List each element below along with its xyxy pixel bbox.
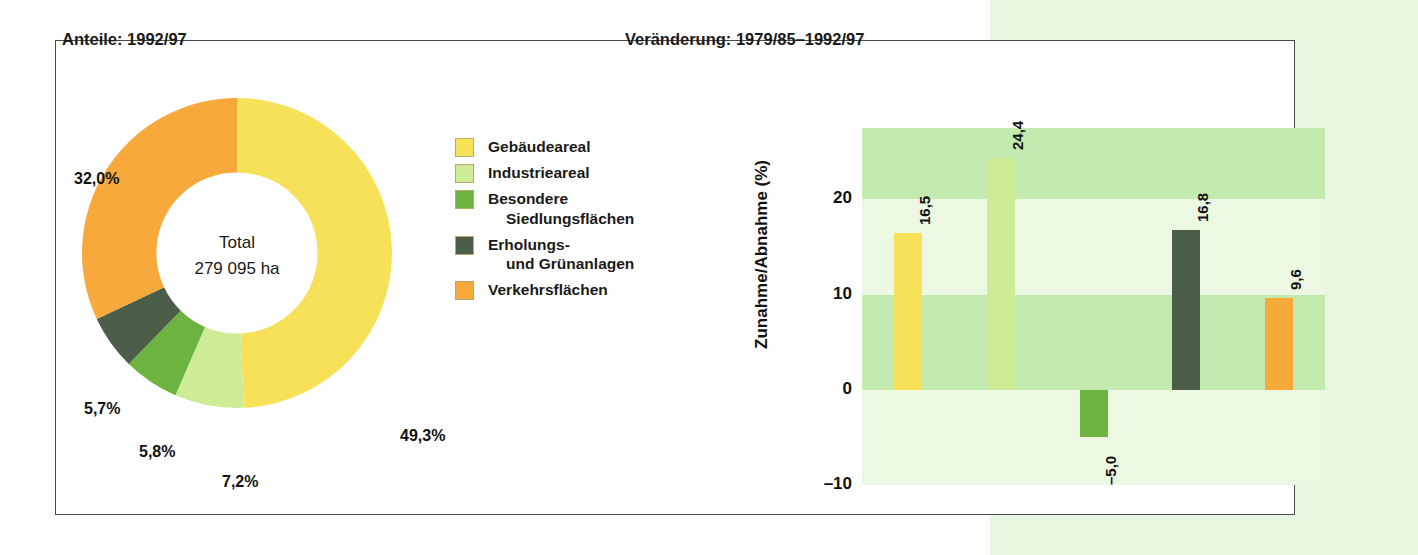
legend-swatch-icon-verkehrsflaechen <box>455 281 474 300</box>
legend-label-text: Industrieareal <box>488 164 590 181</box>
legend-swatch-icon-gebaeudeareal <box>455 138 474 157</box>
donut-chart: Total 279 095 ha <box>72 88 402 418</box>
legend-item-erholungs-gruenanlagen: Erholungs- und Grünanlagen <box>455 235 710 275</box>
donut-label-gebaeudeareal: 49,3% <box>400 427 445 445</box>
bar-chart-y-tick-label: –10 <box>824 474 852 494</box>
bar-value-label: 16,8 <box>1194 193 1211 222</box>
legend-label-verkehrsflaechen: Verkehrsflächen <box>488 280 608 300</box>
donut-label-besondere-siedlungsflaechen: 5,8% <box>139 443 175 461</box>
legend-item-verkehrsflaechen: Verkehrsflächen <box>455 280 710 300</box>
bar <box>1080 390 1108 438</box>
legend-label-besondere-siedlungsflaechen: Besondere Siedlungsflächen <box>488 189 634 229</box>
bar-chart-y-tick-label: 0 <box>843 379 852 399</box>
bar-chart-y-axis-title: Zunahme/Abnahme (%) <box>752 160 772 349</box>
donut-label-industrieareal: 7,2% <box>222 473 258 491</box>
legend-swatch-icon-erholungs-gruenanlagen <box>455 236 474 255</box>
bar-chart-plot-area: 16,524,4–5,016,89,6 <box>862 128 1325 485</box>
legend-label-text: Erholungs- <box>488 236 570 253</box>
legend-swatch-icon-industrieareal <box>455 164 474 183</box>
donut-label-verkehrsflaechen: 32,0% <box>74 170 119 188</box>
legend-label-text: Verkehrsflächen <box>488 281 608 298</box>
legend-item-gebaeudeareal: Gebäudeareal <box>455 137 710 157</box>
legend-label-erholungs-gruenanlagen: Erholungs- und Grünanlagen <box>488 235 634 275</box>
donut-center-total-label: Total <box>219 233 255 252</box>
legend-item-industrieareal: Industrieareal <box>455 163 710 183</box>
legend-label-text-line2: Siedlungsflächen <box>488 209 634 229</box>
left-chart-title: Anteile: 1992/97 <box>62 30 187 49</box>
legend-label-gebaeudeareal: Gebäudeareal <box>488 137 591 157</box>
donut-center-total-value: 279 095 ha <box>194 259 280 278</box>
bar <box>894 233 922 390</box>
bar <box>1172 230 1200 390</box>
bar-value-label: –5,0 <box>1102 456 1119 485</box>
bar-chart-y-ticks: 20100–10 <box>790 0 852 555</box>
legend-label-text-line2: und Grünanlagen <box>488 254 634 274</box>
legend-item-besondere-siedlungsflaechen: Besondere Siedlungsflächen <box>455 189 710 229</box>
donut-slice <box>82 98 237 319</box>
donut-slices <box>82 98 392 408</box>
bar-value-label: 16,5 <box>916 196 933 225</box>
bar-value-label: 24,4 <box>1009 120 1026 149</box>
legend-label-text: Gebäudeareal <box>488 138 591 155</box>
donut-svg: Total 279 095 ha <box>72 88 402 418</box>
bar-chart-band <box>862 128 1325 199</box>
bar-chart-band <box>862 295 1325 390</box>
bar-value-label: 9,6 <box>1287 270 1304 291</box>
legend-label-text: Besondere <box>488 190 568 207</box>
legend: Gebäudeareal Industrieareal Besondere Si… <box>455 137 710 306</box>
bar <box>987 158 1015 390</box>
bar <box>1265 298 1293 389</box>
legend-swatch-icon-besondere-siedlungsflaechen <box>455 190 474 209</box>
bar-chart-y-tick-label: 20 <box>833 188 852 208</box>
legend-label-industrieareal: Industrieareal <box>488 163 590 183</box>
donut-label-erholungs-gruenanlagen: 5,7% <box>84 400 120 418</box>
donut-slice <box>237 98 392 408</box>
bar-chart-y-tick-label: 10 <box>833 284 852 304</box>
